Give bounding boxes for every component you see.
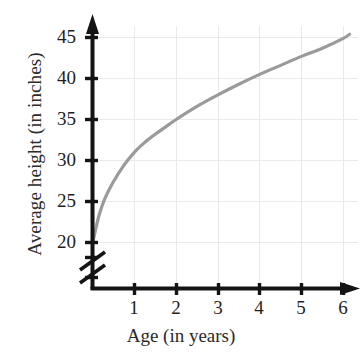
y-axis-title: Average height (in inches) [21, 9, 49, 299]
x-tick-label-3: 3 [206, 297, 230, 319]
data-curve [93, 34, 349, 240]
x-tick-label-1: 1 [122, 297, 146, 319]
y-axis-title-text: Average height (in inches) [24, 52, 46, 255]
x-axis-title: Age (in years) [0, 325, 362, 347]
x-tick-label-6: 6 [331, 297, 355, 319]
x-tick-label-2: 2 [164, 297, 188, 319]
x-tick-label-4: 4 [247, 297, 271, 319]
y-axis-arrowhead [86, 14, 99, 34]
grid-horizontal [92, 38, 358, 243]
x-tick-label-5: 5 [289, 297, 313, 319]
x-axis-title-text: Age (in years) [127, 325, 236, 346]
grid-vertical [135, 26, 344, 288]
chart-figure: 45 40 35 30 25 20 1 2 3 4 5 6 Average he… [0, 0, 362, 360]
